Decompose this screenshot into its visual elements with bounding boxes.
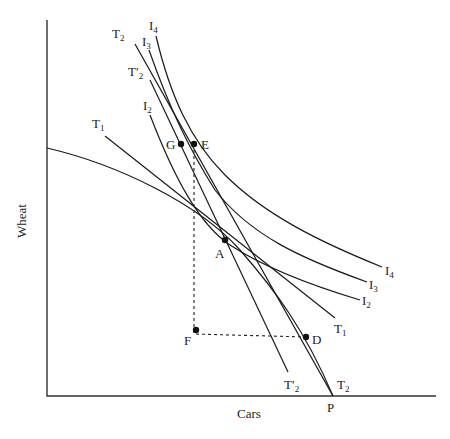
- label-g: G: [166, 137, 175, 152]
- label-t2prime-end: T′2: [284, 377, 299, 394]
- point-d: [303, 334, 309, 340]
- label-t2-end: T2: [337, 377, 349, 394]
- label-i3-end: I3: [369, 277, 378, 294]
- label-i3-top: I3: [142, 34, 151, 51]
- ppf-curve: [47, 148, 333, 396]
- label-t2-top: T2: [112, 26, 124, 43]
- t2-line: [135, 44, 333, 396]
- label-i4-end: I4: [385, 263, 394, 280]
- label-i2-top: I2: [143, 98, 152, 115]
- label-i4-top: I4: [149, 18, 158, 35]
- point-a: [222, 237, 228, 243]
- trade-diagram: G E A F D P I4 T2 I3 T′2 I2 T1 I4 I3 I2 …: [0, 0, 450, 439]
- label-p: P: [327, 400, 334, 415]
- point-g: [178, 141, 184, 147]
- point-e: [191, 141, 197, 147]
- t2-prime-line: [150, 80, 288, 372]
- point-f: [193, 327, 199, 333]
- dashed-guides: [194, 144, 306, 337]
- label-i2-end: I2: [362, 293, 371, 310]
- i4-curve: [156, 36, 382, 267]
- i3-curve: [149, 50, 367, 282]
- label-e: E: [201, 137, 209, 152]
- label-t1-end: T1: [334, 321, 346, 338]
- label-t2prime-top: T′2: [128, 64, 143, 81]
- axes: [47, 20, 436, 396]
- x-axis-label: Cars: [237, 406, 261, 421]
- y-axis-label: Wheat: [14, 204, 29, 238]
- label-d: D: [312, 332, 321, 347]
- label-a: A: [215, 246, 225, 261]
- label-f: F: [184, 333, 191, 348]
- label-t1-top: T1: [92, 116, 104, 133]
